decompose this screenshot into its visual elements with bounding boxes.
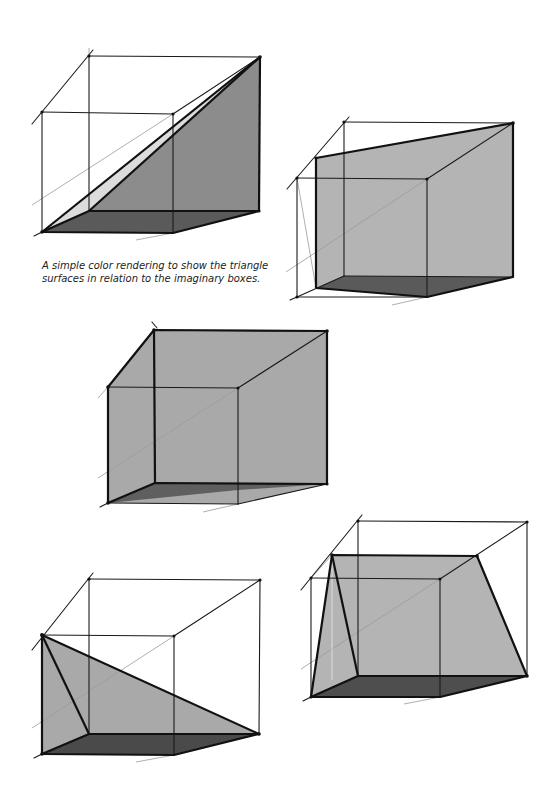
floor-face	[316, 276, 513, 297]
guide-line	[98, 387, 108, 398]
figure-1-box-diagonal-triangle	[32, 48, 262, 240]
figure-5-box-trapezoid-tent	[301, 515, 529, 704]
sloped-plane-face	[316, 123, 513, 288]
guide-line	[203, 504, 238, 512]
figure-caption: A simple color rendering to show the tri…	[42, 259, 302, 285]
figure-2-box-sloped-plane	[286, 117, 515, 305]
guide-line	[392, 297, 427, 305]
back-left-wall-faces	[108, 330, 327, 504]
figure-4-box-descending-triangle	[32, 573, 262, 762]
figure-3-box-back-left-walls	[98, 322, 329, 512]
drawing-canvas	[0, 0, 556, 793]
